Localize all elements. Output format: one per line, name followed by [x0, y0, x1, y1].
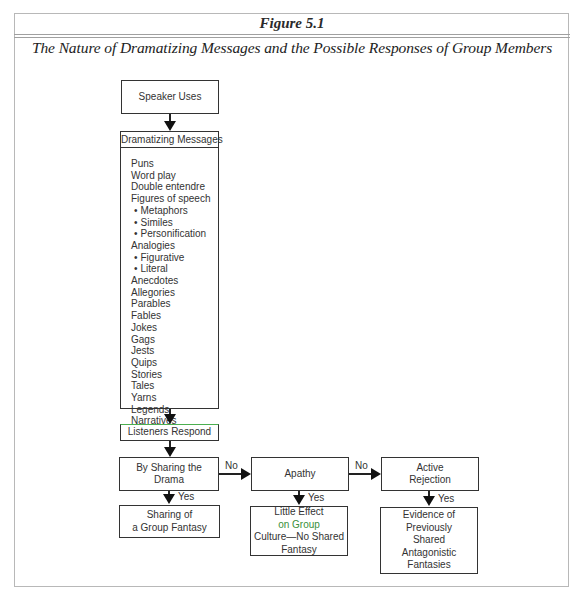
arrow-down-icon	[423, 496, 435, 506]
decision-label: Apathy	[284, 468, 315, 481]
outcome-label: Little Effect	[274, 506, 323, 519]
list-item: Figures of speech	[131, 193, 218, 205]
outcome-label: Fantasies	[407, 559, 450, 572]
list-subitem: Metaphors	[131, 205, 218, 217]
speaker-uses-label: Speaker Uses	[139, 91, 202, 104]
decision-apathy-box: Apathy	[251, 457, 349, 491]
arrow-down-icon	[164, 447, 176, 457]
decision-label: By Sharing the	[136, 462, 202, 475]
list-subitem: Personification	[131, 228, 218, 240]
edge-label-no: No	[225, 460, 238, 471]
header-rule-top	[14, 34, 570, 35]
list-item: Yarns	[131, 392, 218, 404]
outcome-sharing-fantasy-box: Sharing of a Group Fantasy	[119, 505, 220, 538]
list-item: Quips	[131, 357, 218, 369]
dramatizing-messages-header: Dramatizing Messages	[121, 132, 218, 148]
outcome-label: Fantasy	[281, 544, 317, 557]
outcome-label: on Group	[278, 519, 320, 532]
outcome-label: a Group Fantasy	[132, 522, 206, 535]
edge-label-yes: Yes	[438, 493, 454, 504]
list-subitem: Literal	[131, 263, 218, 275]
list-item: Fables	[131, 310, 218, 322]
figure-frame	[14, 13, 569, 587]
list-item: Tales	[131, 380, 218, 392]
outcome-label: Previously	[406, 522, 452, 535]
arrow-down-icon	[293, 495, 305, 505]
edge-label-no: No	[355, 460, 368, 471]
list-item: Allegories	[131, 287, 218, 299]
figure-label: Figure 5.1	[14, 15, 570, 32]
list-item: Puns	[131, 158, 218, 170]
edge-label-yes: Yes	[308, 492, 324, 503]
listeners-respond-box: Listeners Respond	[120, 424, 219, 441]
connector	[349, 473, 371, 475]
list-subitem: Similes	[131, 217, 218, 229]
speaker-uses-box: Speaker Uses	[121, 80, 219, 114]
decision-sharing-drama-box: By Sharing the Drama	[119, 457, 219, 491]
figure-title: The Nature of Dramatizing Messages and t…	[14, 39, 570, 57]
list-item: Double entendre	[131, 181, 218, 193]
decision-label: Rejection	[409, 474, 451, 487]
list-item: Stories	[131, 369, 218, 381]
dramatizing-messages-list: Puns Word play Double entendre Figures o…	[121, 148, 218, 427]
outcome-label: Shared	[413, 534, 445, 547]
list-item: Gags	[131, 334, 218, 346]
list-item: Parables	[131, 298, 218, 310]
list-item: Jests	[131, 345, 218, 357]
outcome-label: Sharing of	[147, 509, 193, 522]
decision-label: Drama	[154, 474, 184, 487]
outcome-label: Culture—No Shared	[254, 531, 344, 544]
list-item: Jokes	[131, 322, 218, 334]
arrow-down-icon	[163, 494, 175, 504]
edge-label-yes: Yes	[178, 491, 194, 502]
dramatizing-messages-box: Dramatizing Messages Puns Word play Doub…	[120, 131, 219, 409]
arrow-down-icon	[164, 414, 176, 424]
outcome-antagonistic-fantasies-box: Evidence of Previously Shared Antagonist…	[380, 507, 478, 574]
arrow-down-icon	[164, 121, 176, 131]
list-item: Word play	[131, 170, 218, 182]
listeners-respond-label: Listeners Respond	[128, 426, 211, 439]
list-subitem: Figurative	[131, 252, 218, 264]
header-rule-bottom	[14, 37, 570, 38]
list-item: Anecdotes	[131, 275, 218, 287]
outcome-label: Evidence of	[403, 509, 455, 522]
decision-active-rejection-box: Active Rejection	[381, 457, 479, 491]
arrow-right-icon	[371, 468, 381, 480]
outcome-label: Antagonistic	[402, 547, 456, 560]
list-item: Analogies	[131, 240, 218, 252]
decision-label: Active	[416, 462, 443, 475]
connector	[219, 473, 241, 475]
arrow-right-icon	[241, 468, 251, 480]
outcome-little-effect-box: Little Effect on Group Culture—No Shared…	[250, 506, 348, 556]
